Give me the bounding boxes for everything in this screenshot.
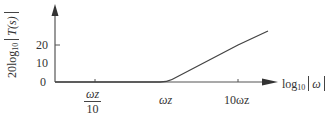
x-tick-label-wz: ωz (159, 94, 172, 106)
y-axis-arrow-icon (52, 4, 59, 16)
y-tick-label-10: 10 (36, 57, 48, 69)
x-axis-label: log10ω (282, 76, 328, 92)
x-axis-label-prefix: log (282, 77, 297, 91)
y-axis-label: 20log10T(s) (4, 9, 20, 78)
y-tick-label-0: 0 (40, 76, 46, 88)
x-tick-label-num: ωz (84, 88, 101, 102)
y-tick-label-20: 20 (36, 39, 48, 51)
x-tick-label-10wz: 10ωz (224, 94, 249, 106)
x-axis-label-arg: ω (312, 77, 320, 91)
x-axis-arrow-icon (262, 79, 278, 86)
y-axis-label-prefix: 20log (5, 51, 19, 78)
y-axis-label-sub: 10 (11, 43, 20, 51)
x-axis-label-sub: 10 (297, 83, 305, 92)
x-tick-label-den: 10 (84, 102, 101, 116)
y-axis-label-arg: T(s) (5, 16, 19, 35)
magnitude-curve (55, 31, 268, 82)
x-tick-label-wz-over-10: ωz 10 (84, 88, 101, 116)
